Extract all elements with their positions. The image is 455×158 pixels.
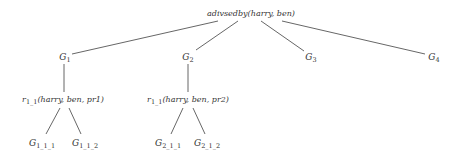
node-g2-1-1: G2_1_1 (155, 139, 181, 148)
edge-r1-g112 (69, 108, 81, 134)
tree-edges (0, 0, 455, 158)
edge-root-g3 (261, 21, 304, 51)
root-node: adivsedby(harry, ben) (207, 10, 295, 18)
node-r2: r1_1(harry, ben, pr2) (147, 96, 229, 104)
node-r2-sub: 1_1 (151, 98, 163, 106)
edge-root-g1 (72, 21, 218, 54)
node-g1-1-2-sub: 1_1_2 (79, 142, 98, 150)
node-g3-sub: 3 (313, 56, 317, 64)
node-r2-args: (harry, ben, pr2) (162, 95, 228, 104)
node-g4-sub: 4 (436, 56, 440, 64)
node-r1-args: (harry, ben, pr1) (37, 95, 103, 104)
edge-root-g2 (196, 21, 238, 50)
node-g1: G1 (59, 53, 70, 62)
node-r1: r1_1(harry, ben, pr1) (22, 96, 104, 104)
node-g1-1-1: G1_1_1 (29, 139, 55, 148)
edge-r2-g211 (171, 108, 183, 134)
root-label: adivsedby(harry, ben) (207, 9, 295, 18)
node-g2-1-1-sub: 2_1_1 (162, 142, 181, 150)
edge-r1-g111 (46, 108, 60, 134)
node-g2-sub: 2 (190, 56, 194, 64)
node-r1-sub: 1_1 (26, 98, 38, 106)
node-g2-1-2: G2_1_2 (194, 139, 220, 148)
node-g2-1-2-sub: 2_1_2 (201, 142, 220, 150)
proof-tree-diagram: adivsedby(harry, ben) G1 G2 G3 G4 r1_1(h… (0, 0, 455, 158)
node-g3: G3 (305, 53, 316, 62)
edge-r2-g212 (193, 108, 205, 134)
node-g4: G4 (428, 53, 439, 62)
node-g1-1-2: G1_1_2 (72, 139, 98, 148)
node-g1-1-1-sub: 1_1_1 (36, 142, 55, 150)
edge-root-g4 (282, 21, 425, 54)
node-g2: G2 (182, 53, 193, 62)
node-g1-sub: 1 (67, 56, 71, 64)
